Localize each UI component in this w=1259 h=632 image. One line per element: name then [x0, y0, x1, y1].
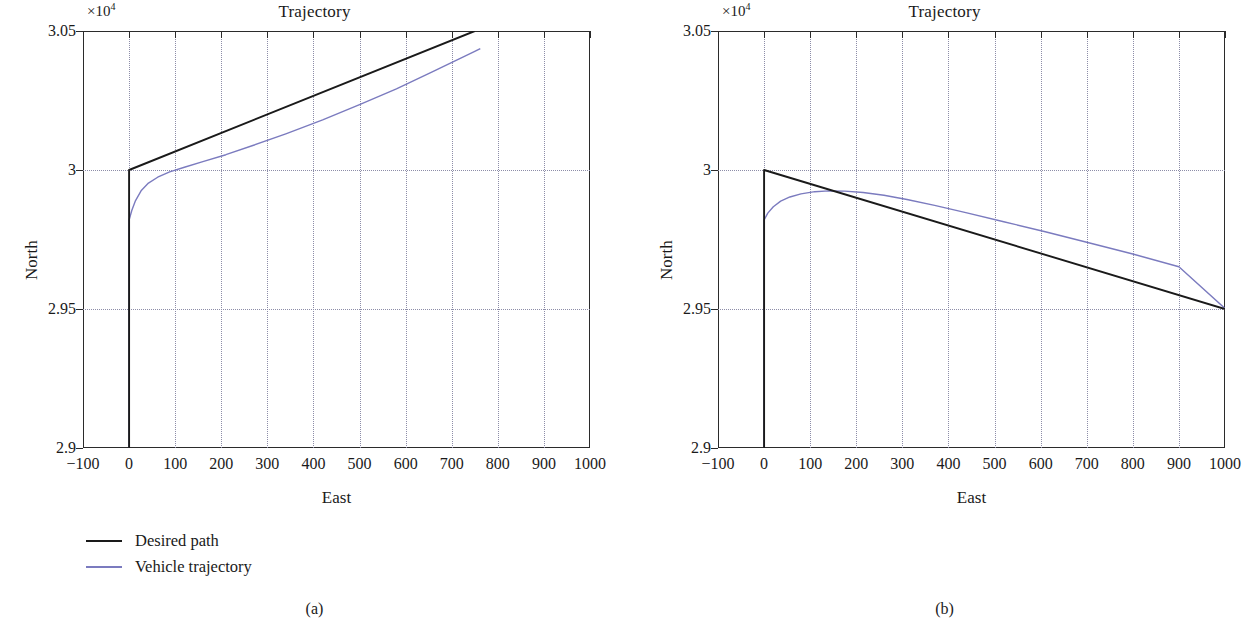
trajectory-figure: Trajectory ×104 North −10001002003004005… — [0, 0, 1259, 632]
series-line-vehicle-trajectory — [764, 191, 1225, 448]
panel-a-plot-area: −100010020030040050060070080090010002.92… — [83, 31, 590, 448]
y-tick-mark — [711, 31, 718, 32]
panel-b-curves — [718, 31, 1225, 448]
x-tick-label: −100 — [66, 455, 99, 473]
series-line-vehicle-trajectory — [129, 49, 480, 448]
y-tick-label: 2.9 — [56, 439, 76, 457]
y-tick-mark — [76, 309, 83, 310]
x-tick-label: 500 — [983, 455, 1007, 473]
x-tick-label: 800 — [486, 455, 510, 473]
panel-b-plot-area: −100010020030040050060070080090010002.92… — [718, 31, 1225, 448]
legend-item-desired-path: Desired path — [86, 528, 252, 554]
y-tick-label: 3 — [68, 161, 76, 179]
series-line-desired-path — [129, 31, 475, 448]
y-tick-label: 2.95 — [48, 300, 76, 318]
x-tick-label: 1000 — [574, 455, 606, 473]
x-tick-label: 900 — [1167, 455, 1191, 473]
x-tick-label: 400 — [936, 455, 960, 473]
x-tick-label: 0 — [125, 455, 133, 473]
x-tick-label: 300 — [890, 455, 914, 473]
x-tick-mark — [590, 31, 591, 38]
x-tick-label: 400 — [301, 455, 325, 473]
x-tick-label: 700 — [1075, 455, 1099, 473]
panel-a-ylabel: North — [22, 240, 42, 280]
y-tick-label: 3 — [703, 161, 711, 179]
y-tick-mark — [711, 309, 718, 310]
panel-a-curves — [83, 31, 590, 448]
panel-a: Trajectory ×104 North −10001002003004005… — [0, 0, 629, 632]
x-tick-mark — [1225, 31, 1226, 38]
panel-b-svg — [718, 31, 1225, 448]
x-tick-label: 0 — [760, 455, 768, 473]
y-tick-mark — [711, 448, 718, 449]
x-tick-label: 1000 — [1209, 455, 1241, 473]
x-tick-label: 100 — [163, 455, 187, 473]
x-tick-label: 800 — [1121, 455, 1145, 473]
x-tick-label: 100 — [798, 455, 822, 473]
y-tick-mark — [711, 170, 718, 171]
y-tick-mark — [76, 31, 83, 32]
y-tick-mark — [76, 448, 83, 449]
x-tick-label: 600 — [1029, 455, 1053, 473]
panel-b-y-exponent: ×104 — [722, 1, 750, 20]
panel-b-series — [764, 170, 1225, 448]
y-tick-label: 2.95 — [683, 300, 711, 318]
exponent-power: 4 — [110, 1, 115, 12]
x-tick-label: 700 — [440, 455, 464, 473]
panel-a-caption: (a) — [0, 600, 629, 618]
y-tick-label: 3.05 — [48, 22, 76, 40]
exponent-base: ×10 — [87, 3, 110, 19]
panel-a-svg — [83, 31, 590, 448]
x-tick-label: 900 — [532, 455, 556, 473]
exponent-power: 4 — [745, 1, 750, 12]
y-tick-mark — [76, 170, 83, 171]
y-tick-label: 2.9 — [691, 439, 711, 457]
legend-label-desired-path: Desired path — [135, 531, 219, 551]
legend-swatch-desired-path — [86, 540, 122, 542]
panel-a-y-exponent: ×104 — [87, 1, 115, 20]
x-tick-label: −100 — [701, 455, 734, 473]
x-tick-label: 600 — [394, 455, 418, 473]
legend-swatch-vehicle-trajectory — [86, 566, 122, 568]
panel-a-series — [129, 31, 480, 448]
x-tick-label: 200 — [844, 455, 868, 473]
legend-label-vehicle-trajectory: Vehicle trajectory — [135, 557, 252, 577]
panel-b-caption: (b) — [630, 600, 1259, 618]
panel-b-xlabel: East — [718, 488, 1225, 508]
panel-b-ylabel: North — [657, 240, 677, 280]
exponent-base: ×10 — [722, 3, 745, 19]
y-tick-label: 3.05 — [683, 22, 711, 40]
x-tick-label: 500 — [348, 455, 372, 473]
series-line-desired-path — [764, 170, 1225, 448]
x-tick-label: 200 — [209, 455, 233, 473]
x-tick-label: 300 — [255, 455, 279, 473]
panel-b: Trajectory ×104 North −10001002003004005… — [630, 0, 1259, 632]
panel-a-legend: Desired path Vehicle trajectory — [86, 528, 252, 580]
panel-a-xlabel: East — [83, 488, 590, 508]
legend-item-vehicle-trajectory: Vehicle trajectory — [86, 554, 252, 580]
